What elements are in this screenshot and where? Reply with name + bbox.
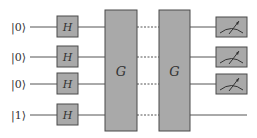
- qubit-label-1: |0⟩: [11, 51, 26, 65]
- meter-icon: [216, 74, 247, 94]
- g-gate-2: G: [159, 10, 190, 131]
- g-gate-1-label: G: [116, 64, 126, 79]
- hadamard-gate-q3: H: [57, 104, 78, 125]
- g-gate-2-label: G: [169, 64, 179, 79]
- hadamard-gate-q2: H: [57, 73, 78, 94]
- qubit-label-0: |0⟩: [11, 21, 26, 35]
- qubit-label-2: |0⟩: [11, 78, 26, 92]
- quantum-circuit: |0⟩ |0⟩ |0⟩ |1⟩ H H H H G G: [0, 0, 257, 138]
- hadamard-label: H: [62, 109, 73, 122]
- hadamard-label: H: [62, 78, 73, 91]
- qubit-labels: |0⟩ |0⟩ |0⟩ |1⟩: [11, 21, 26, 123]
- meter-icon: [216, 17, 247, 37]
- hadamard-label: H: [62, 51, 73, 64]
- hadamard-label: H: [62, 21, 73, 34]
- hadamard-gate-q1: H: [57, 46, 78, 67]
- measurement-meters: [216, 17, 247, 94]
- g-gate-1: G: [105, 10, 137, 131]
- hadamard-gates: H H H H: [57, 16, 78, 125]
- hadamard-gate-q0: H: [57, 16, 78, 37]
- meter-icon: [216, 47, 247, 67]
- wires: [30, 27, 247, 115]
- qubit-label-3: |1⟩: [11, 109, 26, 123]
